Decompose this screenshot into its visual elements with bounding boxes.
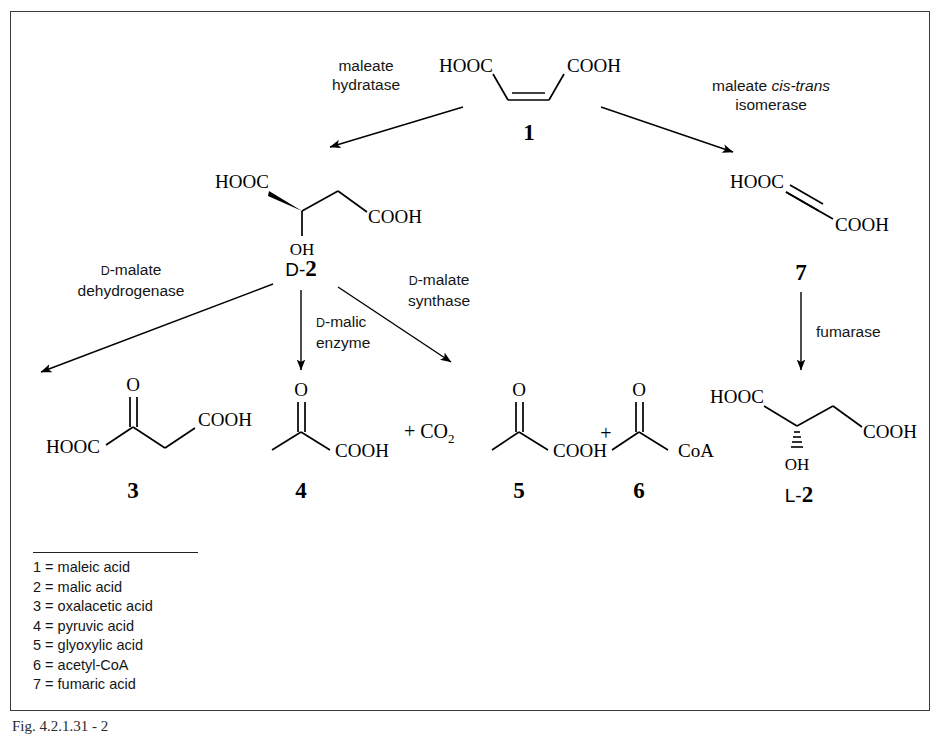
enzyme-label-d-malate-dehydrogenase: D-malate dehydrogenase — [78, 260, 185, 300]
atom-label-cooh-3: COOH — [198, 409, 252, 430]
legend-item: 4 = pyruvic acid — [33, 617, 213, 637]
atom-label-hooc-l2: HOOC — [710, 386, 764, 407]
compound-number-5: 5 — [513, 478, 525, 504]
atom-label-hooc-1: HOOC — [439, 55, 493, 76]
legend-item: 1 = maleic acid — [33, 558, 213, 578]
stereo-prefix-d: D- — [285, 259, 305, 280]
compound-number-4: 4 — [295, 478, 307, 504]
co2-subscript: 2 — [448, 431, 455, 446]
enzyme-label-line1: D-malate — [408, 270, 470, 291]
legend-item: 3 = oxalacetic acid — [33, 597, 213, 617]
atom-label-oh-l2: OH — [785, 455, 810, 474]
enzyme-label-line2: hydratase — [332, 75, 400, 94]
legend-item: 6 = acetyl-CoA — [33, 656, 213, 676]
arrow-maleate-hydratase — [330, 107, 463, 147]
compound-number-1: 1 — [523, 120, 535, 146]
stereo-prefix-d: D — [409, 274, 418, 288]
structure-l-malic-acid: HOOC COOH OH — [710, 386, 917, 474]
atom-label-coa-6: CoA — [678, 440, 714, 461]
enzyme-label-line1-rest: -malate — [110, 261, 162, 278]
byproduct-co2: + CO2 — [404, 420, 455, 447]
stereo-prefix-d: D — [101, 264, 110, 278]
compound-number-d-2: D-2 — [285, 256, 317, 282]
enzyme-label-line1-rest: -malate — [418, 271, 470, 288]
enzyme-label-line2: dehydrogenase — [78, 281, 185, 300]
structure-d-malic-acid: HOOC COOH OH — [215, 171, 422, 259]
enzyme-label-maleate-isomerase: maleate cis-trans isomerase — [712, 76, 830, 114]
compound-number-3: 3 — [127, 478, 139, 504]
figure-caption: Fig. 4.2.1.31 - 2 — [12, 718, 108, 735]
atom-label-o-4: O — [294, 379, 308, 400]
atom-label-hooc-3: HOOC — [46, 436, 100, 457]
atom-label-hooc-7: HOOC — [730, 171, 784, 192]
compound-number-l-2: L-2 — [785, 482, 813, 508]
atom-label-cooh-l2: COOH — [863, 421, 917, 442]
atom-label-cooh-5: COOH — [553, 440, 607, 461]
enzyme-label-line1a: maleate — [712, 77, 771, 94]
stereo-prefix-d: D — [316, 316, 325, 330]
atom-label-o-5: O — [512, 379, 526, 400]
enzyme-label-d-malate-synthase: D-malate synthase — [408, 270, 470, 310]
atom-label-o-6: O — [632, 379, 646, 400]
enzyme-label-line1: maleate cis-trans — [712, 76, 830, 95]
enzyme-label-maleate-hydratase: maleate hydratase — [332, 56, 400, 94]
compound-number-7: 7 — [795, 260, 807, 286]
legend-divider — [33, 552, 198, 553]
legend-item: 2 = malic acid — [33, 578, 213, 598]
compound-number-6: 6 — [633, 478, 645, 504]
atom-label-cooh-1: COOH — [567, 55, 621, 76]
legend-item: 5 = glyoxylic acid — [33, 636, 213, 656]
figure-frame: HOOC COOH HOOC COOH OH — [10, 11, 930, 711]
atom-label-cooh-7: COOH — [835, 214, 889, 235]
structure-acetyl-coa: O CoA — [612, 379, 714, 461]
structure-maleic-acid: HOOC COOH — [439, 55, 621, 100]
enzyme-label-line2: isomerase — [712, 95, 830, 114]
enzyme-label-d-malic-enzyme: D-malic enzyme — [316, 312, 370, 352]
atom-label-cooh-4: COOH — [335, 440, 389, 461]
enzyme-label-line1: D-malate — [78, 260, 185, 281]
enzyme-label-line1: maleate — [332, 56, 400, 75]
enzyme-label-line1: D-malic — [316, 312, 370, 333]
structure-fumaric-acid: HOOC COOH — [730, 171, 889, 235]
atom-label-cooh-d2: COOH — [368, 206, 422, 227]
structure-glyoxylic-acid: O COOH — [492, 379, 607, 461]
enzyme-label-line2: enzyme — [316, 333, 370, 352]
structure-pyruvic-acid: O COOH — [272, 379, 389, 461]
enzyme-label-cis-trans: cis-trans — [771, 77, 830, 94]
enzyme-label-line2: synthase — [408, 291, 470, 310]
atom-label-o-3: O — [126, 374, 140, 395]
stereo-prefix-l: L- — [785, 485, 802, 506]
structure-oxalacetic-acid: O HOOC COOH — [46, 374, 252, 457]
legend: 1 = maleic acid 2 = malic acid 3 = oxala… — [33, 552, 213, 695]
legend-item: 7 = fumaric acid — [33, 675, 213, 695]
atom-label-hooc-d2: HOOC — [215, 171, 269, 192]
enzyme-label-line1-rest: -malic — [325, 313, 366, 330]
enzyme-label-fumarase: fumarase — [816, 322, 881, 341]
enzyme-label-line1: fumarase — [816, 322, 881, 341]
plus-sign-5-6: + — [600, 422, 611, 445]
